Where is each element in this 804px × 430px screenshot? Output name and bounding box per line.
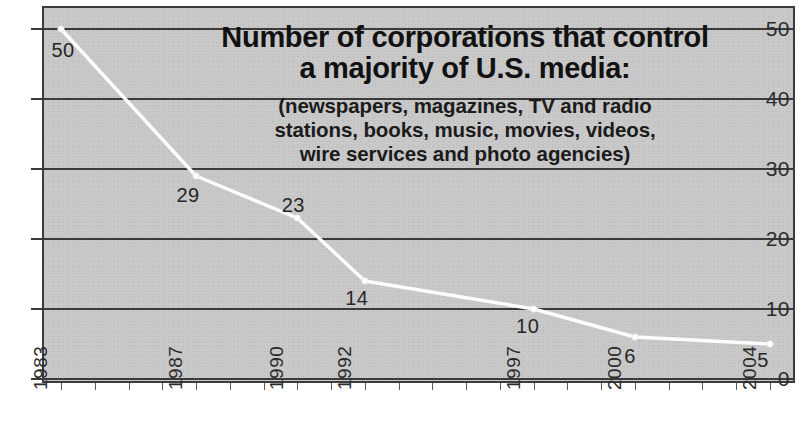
x-axis-tick-mark-1997 <box>534 383 535 390</box>
data-label-1990: 23 <box>282 194 305 217</box>
x-axis-tick-mark-1995 <box>466 383 467 390</box>
data-point-1992 <box>362 278 368 284</box>
x-axis-tick-mark-2004 <box>770 383 771 390</box>
x-axis-tick-mark-1985 <box>129 383 130 390</box>
x-axis-tick-mark-2000 <box>635 383 636 390</box>
x-axis-tick-label-1983: 1983 <box>30 346 52 390</box>
y-axis-tick-label-0: 0 <box>778 367 790 391</box>
x-axis-tick-mark-1983 <box>61 383 62 390</box>
y-axis-tick-label-40: 40 <box>766 87 790 111</box>
x-axis-tick-mark-1994 <box>432 383 433 390</box>
data-label-1983: 50 <box>51 39 74 62</box>
x-axis-tick-label-1990: 1990 <box>266 346 288 390</box>
x-axis-tick-mark-1992 <box>365 383 366 390</box>
y-axis-tick-label-10: 10 <box>766 297 790 321</box>
x-axis-tick-mark-1989 <box>264 383 265 390</box>
y-axis-tick-label-20: 20 <box>766 227 790 251</box>
y-axis-tick-mark-20 <box>31 238 44 240</box>
x-axis-tick-mark-1988 <box>230 383 231 390</box>
y-axis-tick-mark-40 <box>31 98 44 100</box>
series-plot <box>44 8 795 383</box>
y-axis-tick-label-50: 50 <box>766 17 790 41</box>
y-axis-tick-label-30: 30 <box>766 157 790 181</box>
x-axis-tick-mark-1999 <box>601 383 602 390</box>
x-axis-tick-label-1992: 1992 <box>334 346 356 390</box>
x-axis-tick-mark-1996 <box>500 383 501 390</box>
data-point-1997 <box>531 306 537 312</box>
y-axis-tick-mark-10 <box>31 308 44 310</box>
x-axis-tick-label-2000: 2000 <box>604 346 626 390</box>
series-markers <box>58 26 773 347</box>
x-axis-tick-mark-1998 <box>567 383 568 390</box>
x-axis-tick-mark-2003 <box>736 383 737 390</box>
plot-area: 502923141065 <box>42 6 795 383</box>
data-point-2004 <box>767 341 773 347</box>
x-axis-tick-mark-1991 <box>331 383 332 390</box>
media-ownership-line-chart: 502923141065 Number of corporations that… <box>0 0 804 430</box>
x-axis-tick-label-1987: 1987 <box>165 346 187 390</box>
x-axis-tick-mark-1993 <box>399 383 400 390</box>
x-axis-tick-label-2004: 2004 <box>739 346 761 390</box>
data-point-1983 <box>58 26 64 32</box>
data-label-1987: 29 <box>176 184 199 207</box>
x-axis-tick-mark-1990 <box>297 383 298 390</box>
x-axis-tick-mark-1984 <box>95 383 96 390</box>
data-label-1997: 10 <box>516 315 539 338</box>
data-point-1987 <box>193 173 199 179</box>
x-axis-tick-mark-1986 <box>162 383 163 390</box>
x-axis-tick-mark-1987 <box>196 383 197 390</box>
y-axis-tick-mark-50 <box>31 28 44 30</box>
x-axis-tick-mark-2001 <box>669 383 670 390</box>
data-point-2000 <box>632 334 638 340</box>
x-axis-tick-label-1997: 1997 <box>503 346 525 390</box>
x-axis-tick-mark-2002 <box>702 383 703 390</box>
series-line-corporations <box>61 29 770 344</box>
data-label-1992: 14 <box>345 287 368 310</box>
y-axis-tick-mark-30 <box>31 168 44 170</box>
